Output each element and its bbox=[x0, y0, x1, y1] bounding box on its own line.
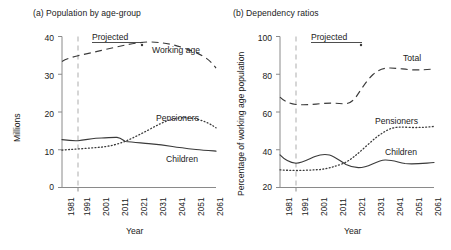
panel-a-annotation-projected: Projected bbox=[92, 32, 128, 42]
panel-a-xtick-2001: 2001 bbox=[101, 197, 111, 216]
panel-a-label-working-age: Working age bbox=[152, 45, 200, 55]
panel-b-projected-pointer-icon bbox=[360, 44, 362, 46]
panel-b-xtick-2001: 2001 bbox=[319, 197, 329, 216]
panel-a-label-children: Children bbox=[166, 154, 198, 164]
panel-a-x-axis-label: Year bbox=[126, 226, 143, 236]
panel-b-xtick-1981: 1981 bbox=[284, 197, 294, 216]
panel-b-xtick-2061: 2061 bbox=[433, 197, 443, 216]
panel-b-label-total: Total bbox=[403, 53, 421, 63]
panel-a-xtick-2011: 2011 bbox=[120, 198, 130, 216]
panel-b-xtick-2021: 2021 bbox=[357, 197, 367, 216]
panel-dependency-ratios: (b) Dependency ratios Percentage of work… bbox=[225, 0, 451, 250]
panel-population-by-age-group: (a) Population by age-group Millions 40 … bbox=[0, 0, 226, 250]
panel-b-series-total bbox=[280, 68, 434, 105]
panel-a-xtick-2061: 2061 bbox=[215, 197, 225, 216]
panel-b-xtick-2051: 2051 bbox=[414, 197, 424, 216]
panel-b-x-axis-label: Year bbox=[344, 226, 361, 236]
panel-a-label-pensioners: Pensioners bbox=[156, 113, 199, 123]
panel-b-xtick-1991: 1991 bbox=[300, 197, 310, 216]
panel-b-xtick-2031: 2031 bbox=[376, 197, 386, 216]
panel-a-xtick-2021: 2021 bbox=[139, 197, 149, 216]
panel-a-xtick-2031: 2031 bbox=[158, 197, 168, 216]
panel-b-xtick-2011: 2011 bbox=[338, 198, 348, 216]
panel-a-xtick-2051: 2051 bbox=[196, 197, 206, 216]
panel-b-label-children: Children bbox=[385, 147, 417, 157]
figure-root: (a) Population by age-group Millions 40 … bbox=[0, 0, 451, 250]
panel-b-label-pensioners: Pensioners bbox=[375, 116, 418, 126]
panel-a-projected-pointer-icon bbox=[141, 44, 143, 46]
panel-a-xtick-1981: 1981 bbox=[66, 197, 76, 216]
panel-a-xtick-1991: 1991 bbox=[82, 197, 92, 216]
panel-b-annotation-projected: Projected bbox=[311, 32, 347, 42]
panel-a-xtick-2041: 2041 bbox=[177, 197, 187, 216]
panel-b-xtick-2041: 2041 bbox=[395, 197, 405, 216]
